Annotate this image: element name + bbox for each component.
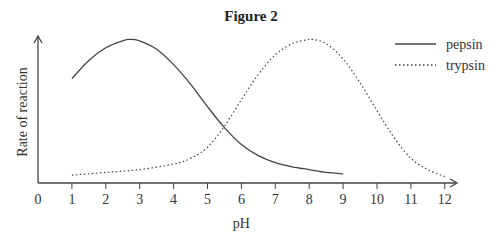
line-chart: 0123456789101112pHRate of reaction pepsi… bbox=[0, 0, 502, 242]
y-axis-label: Rate of reaction bbox=[15, 67, 30, 156]
legend-label-trypsin: trypsin bbox=[446, 58, 485, 73]
x-tick-label: 9 bbox=[340, 192, 347, 207]
x-tick-label: 1 bbox=[68, 192, 75, 207]
axes: 0123456789101112pHRate of reaction bbox=[15, 36, 457, 231]
x-tick-label: 6 bbox=[238, 192, 245, 207]
series-lines bbox=[72, 39, 445, 177]
legend-label-pepsin: pepsin bbox=[446, 37, 483, 52]
x-tick-label: 12 bbox=[438, 192, 452, 207]
x-tick-label: 8 bbox=[306, 192, 313, 207]
x-tick-label: 0 bbox=[35, 192, 42, 207]
x-tick-label: 7 bbox=[272, 192, 279, 207]
x-axis-label: pH bbox=[233, 216, 250, 231]
x-tick-label: 4 bbox=[170, 192, 177, 207]
x-tick-label: 10 bbox=[370, 192, 384, 207]
pepsin-line bbox=[72, 39, 343, 173]
x-tick-label: 5 bbox=[204, 192, 211, 207]
legend: pepsintrypsin bbox=[395, 37, 485, 73]
x-tick-label: 2 bbox=[102, 192, 109, 207]
x-tick-label: 11 bbox=[404, 192, 417, 207]
x-tick-label: 3 bbox=[136, 192, 143, 207]
